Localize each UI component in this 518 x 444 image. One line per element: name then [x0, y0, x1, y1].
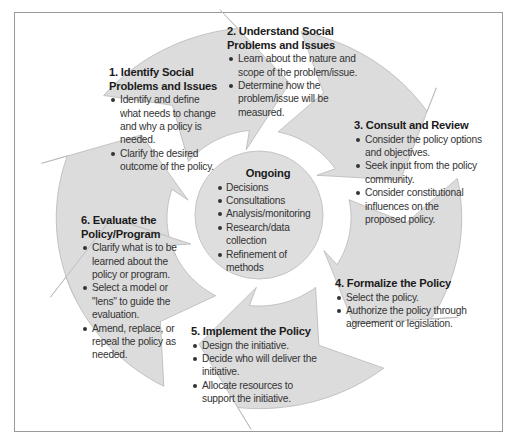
- step-5-item: Allocate resources to support the initia…: [191, 379, 323, 406]
- step-1-title: 1. Identify Social Problems and Issues: [109, 66, 219, 93]
- step-3-item: Consider the policy options and objectiv…: [354, 133, 482, 160]
- step-6-block: 6. Evaluate the Policy/Program Clarify w…: [81, 214, 181, 362]
- step-1-item: Identify and define what needs to change…: [109, 93, 219, 147]
- step-4-item: Select the policy.: [335, 291, 475, 304]
- step-4-title: 4. Formalize the Policy: [335, 277, 475, 291]
- step-2-item: Determine how the problem/issue will be …: [227, 79, 362, 119]
- center-item: Refinement of methods: [218, 248, 318, 275]
- center-item: Decisions: [218, 181, 318, 194]
- step-3-block: 3. Consult and Review Consider the polic…: [354, 119, 482, 226]
- step-2-block: 2. Understand Social Problems and Issues…: [227, 25, 362, 119]
- step-6-item: Clarify what is to be learned about the …: [81, 241, 181, 281]
- step-3-title: 3. Consult and Review: [354, 119, 482, 133]
- step-1-block: 1. Identify Social Problems and Issues I…: [109, 66, 219, 174]
- step-6-item: Amend, replace, or repeal the policy as …: [81, 322, 181, 362]
- step-5-title: 5. Implement the Policy: [191, 325, 323, 339]
- step-4-item: Authorize the policy through agreement o…: [335, 304, 475, 331]
- step-6-title: 6. Evaluate the Policy/Program: [81, 214, 181, 241]
- step-6-item: Select a model or "lens" to guide the ev…: [81, 281, 181, 321]
- step-5-item: Decide who will deliver the initiative.: [191, 352, 323, 379]
- step-3-item: Consider constitutional influences on th…: [354, 186, 482, 226]
- step-2-item: Learn about the nature and scope of the …: [227, 52, 362, 79]
- step-4-block: 4. Formalize the Policy Select the polic…: [335, 277, 475, 331]
- step-5-block: 5. Implement the Policy Design the initi…: [191, 325, 323, 406]
- center-item: Consultations: [218, 194, 318, 207]
- center-block: Ongoing Decisions Consultations Analysis…: [218, 167, 318, 274]
- center-item: Research/data collection: [218, 221, 318, 248]
- step-3-item: Seek input from the policy community.: [354, 159, 482, 186]
- step-5-item: Design the initiative.: [191, 339, 323, 352]
- step-1-item: Clarify the desired outcome of the polic…: [109, 147, 219, 174]
- center-item: Analysis/monitoring: [218, 207, 318, 220]
- center-title: Ongoing: [218, 167, 318, 181]
- step-2-title: 2. Understand Social Problems and Issues: [227, 25, 362, 52]
